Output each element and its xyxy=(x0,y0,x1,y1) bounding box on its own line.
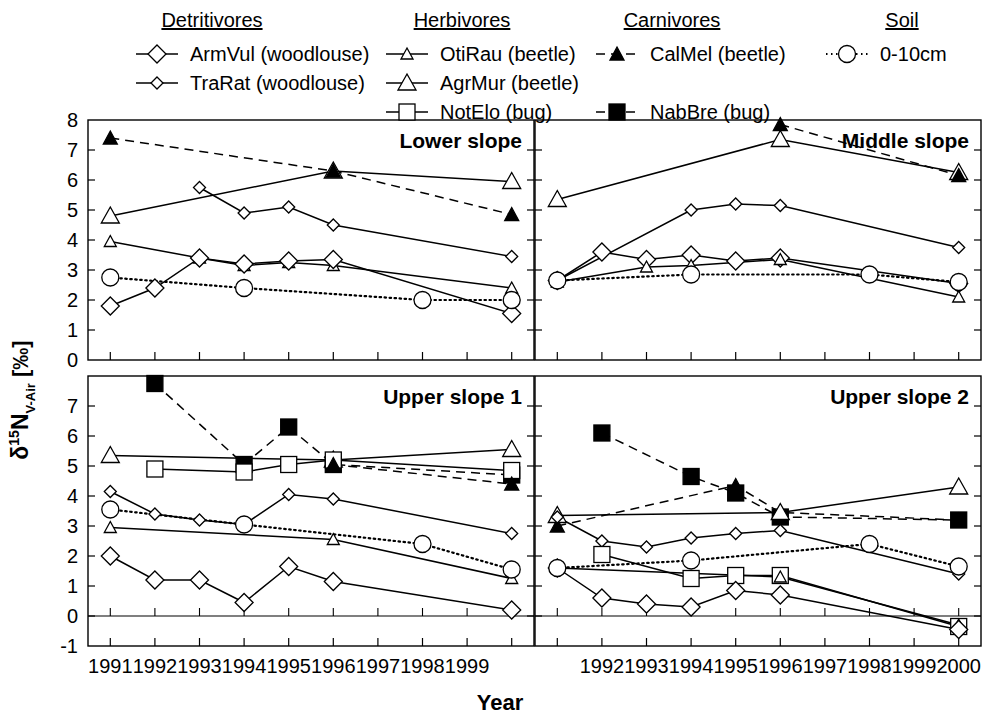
x-axis-label: Year xyxy=(477,690,524,715)
legend-group-title: Herbivores xyxy=(414,9,511,31)
data-point-square-open xyxy=(281,457,297,473)
y-tick-label: 2 xyxy=(67,289,78,311)
data-point-circle-open xyxy=(102,501,119,518)
data-point-circle-open xyxy=(102,269,119,286)
legend-label: AgrMur (beetle) xyxy=(440,72,579,94)
data-point-circle-open xyxy=(861,266,878,283)
x-tick-label: 1997 xyxy=(803,655,848,677)
y-tick-label: 5 xyxy=(67,199,78,221)
legend-label: 0-10cm xyxy=(880,43,947,65)
legend-group-title: Carnivores xyxy=(624,9,721,31)
y-tick-label: 1 xyxy=(67,319,78,341)
y-tick-label: 3 xyxy=(67,515,78,537)
data-point-diamond-small xyxy=(506,528,518,540)
data-point-circle-open xyxy=(414,536,431,553)
data-point-triangle-large xyxy=(101,447,119,463)
legend-item-agrmur[interactable]: AgrMur (beetle) xyxy=(386,72,579,94)
data-point-diamond-small xyxy=(685,532,697,544)
panel-title: Upper slope 1 xyxy=(383,385,522,408)
legend: DetritivoresArmVul (woodlouse)TraRat (wo… xyxy=(136,9,947,123)
series-line-AgrMur xyxy=(110,450,511,461)
data-point-diamond-small xyxy=(596,535,608,547)
data-point-circle-open xyxy=(236,516,253,533)
data-point-triangle-small xyxy=(104,236,116,247)
data-point-diamond-large xyxy=(727,252,745,270)
legend-label: OtiRau (beetle) xyxy=(440,43,576,65)
data-point-triangle-filled xyxy=(103,131,117,144)
series-line-OtiRau xyxy=(110,242,511,289)
data-point-square-filled xyxy=(594,425,610,441)
panel-upper-slope-2: 199219931994199519961997199819992000Uppe… xyxy=(535,376,981,677)
x-tick-label: 1994 xyxy=(222,655,267,677)
series-markers-TraRat xyxy=(194,182,518,263)
data-point-diamond-small xyxy=(238,207,250,219)
data-point-square-filled xyxy=(281,419,297,435)
legend-item-calmel[interactable]: CalMel (beetle) xyxy=(596,43,786,65)
data-point-diamond-large xyxy=(638,595,656,613)
data-point-diamond-small xyxy=(774,200,786,212)
data-point-diamond-large xyxy=(235,594,253,612)
series-markers-AgrMur xyxy=(548,478,967,523)
data-point-square-open xyxy=(236,464,252,480)
data-point-diamond-large xyxy=(191,249,209,267)
series-line-TraRat xyxy=(557,204,958,281)
data-point-triangle-filled xyxy=(505,208,519,221)
y-tick-label: 0 xyxy=(67,605,78,627)
data-point-diamond-large xyxy=(727,582,745,600)
data-point-circle-open xyxy=(236,280,253,297)
legend-item-otirau[interactable]: OtiRau (beetle) xyxy=(386,43,576,65)
x-tick-label: 1995 xyxy=(713,655,758,677)
panel-title: Lower slope xyxy=(399,129,522,152)
data-point-diamond-large xyxy=(324,573,342,591)
x-tick-label: 1998 xyxy=(847,655,892,677)
legend-item-trarat[interactable]: TraRat (woodlouse) xyxy=(136,72,365,94)
panel-title: Middle slope xyxy=(842,129,969,152)
data-point-triangle-large xyxy=(503,441,521,457)
data-point-diamond-small xyxy=(151,77,163,89)
data-point-diamond-large xyxy=(771,586,789,604)
data-point-diamond-small xyxy=(283,489,295,501)
y-tick-label: 7 xyxy=(67,139,78,161)
data-point-square-filled xyxy=(609,104,625,120)
data-point-square-open xyxy=(594,547,610,563)
x-tick-label: 1995 xyxy=(266,655,311,677)
legend-label: ArmVul (woodlouse) xyxy=(190,43,369,65)
series-markers-OtiRau xyxy=(551,562,964,630)
data-point-circle-open xyxy=(414,292,431,309)
series-markers-Soil xyxy=(102,269,520,309)
legend-label: NabBre (bug) xyxy=(650,101,770,123)
x-tick-label: 1991 xyxy=(88,655,133,677)
data-point-diamond-small xyxy=(194,514,206,526)
data-point-square-filled xyxy=(147,376,163,392)
data-point-square-open xyxy=(399,104,415,120)
legend-item-notelo[interactable]: NotElo (bug) xyxy=(386,101,552,123)
data-point-diamond-large xyxy=(101,297,119,315)
legend-label: TraRat (woodlouse) xyxy=(190,72,365,94)
y-tick-label: 6 xyxy=(67,169,78,191)
data-point-diamond-small xyxy=(685,204,697,216)
data-point-diamond-large xyxy=(101,547,119,565)
series-line-ArmVul xyxy=(110,556,511,610)
data-point-diamond-small xyxy=(194,182,206,194)
data-point-diamond-small xyxy=(774,525,786,537)
data-point-triangle-large xyxy=(771,131,789,147)
data-point-diamond-small xyxy=(283,201,295,213)
y-tick-label: 2 xyxy=(67,545,78,567)
panel-upper-slope-1: -101234567199119921993199419951996199719… xyxy=(60,376,534,678)
panel-lower-slope: 012345678Lower slope xyxy=(67,109,534,371)
legend-item-nabbre[interactable]: NabBre (bug) xyxy=(596,101,770,123)
data-point-diamond-small xyxy=(506,251,518,263)
data-point-square-open xyxy=(683,571,699,587)
legend-item-0-10cm[interactable]: 0-10cm xyxy=(826,43,947,65)
x-tick-label: 1993 xyxy=(624,655,669,677)
data-point-circle-open xyxy=(503,292,520,309)
legend-label: CalMel (beetle) xyxy=(650,43,786,65)
data-point-square-filled xyxy=(683,469,699,485)
y-tick-label: -1 xyxy=(60,635,78,657)
data-point-diamond-small xyxy=(730,198,742,210)
data-point-diamond-large xyxy=(593,243,611,261)
data-point-diamond-small xyxy=(149,508,161,520)
data-point-diamond-large xyxy=(682,598,700,616)
legend-item-armvul[interactable]: ArmVul (woodlouse) xyxy=(136,43,369,65)
series-line-AgrMur xyxy=(110,171,511,216)
